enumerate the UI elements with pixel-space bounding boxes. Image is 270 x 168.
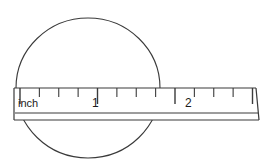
ruler-unit-label: inch bbox=[18, 97, 38, 109]
ruler-and-oval-diagram: inch 1 2 bbox=[0, 0, 270, 168]
ruler-number-1: 1 bbox=[92, 96, 99, 110]
ruler-number-2: 2 bbox=[185, 96, 192, 110]
figure-canvas: inch 1 2 bbox=[0, 0, 270, 168]
